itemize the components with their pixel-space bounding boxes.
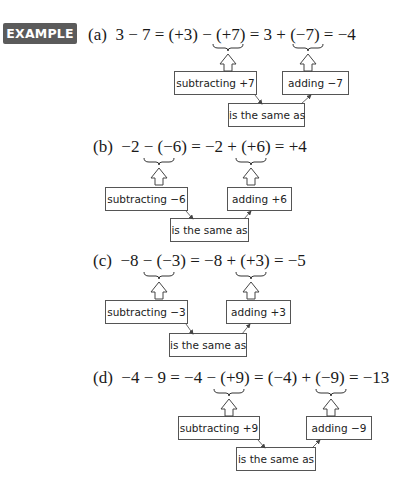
- callout-add-d: adding −9: [306, 416, 372, 440]
- brace-arrow-subtract-a: [213, 44, 243, 71]
- callout-subtract-d: subtracting +9: [178, 416, 260, 440]
- example-badge: EXAMPLE 1: [3, 23, 77, 44]
- callout-subtract-c: subtracting −3: [105, 300, 188, 324]
- equation-b: (b) −2 − (−6) = −2 + (+6) = +4: [93, 137, 307, 157]
- brace-arrow-add-c: [236, 272, 266, 299]
- equation-d-text: −4 − 9 = −4 − (+9) = (−4) + (−9) = −13: [121, 368, 389, 387]
- callout-add-b: adding +6: [227, 187, 292, 211]
- brace-arrow-add-d: [316, 389, 346, 416]
- equation-b-text: −2 − (−6) = −2 + (+6) = +4: [121, 137, 306, 156]
- callout-add-a: adding −7: [282, 71, 349, 95]
- brace-arrow-subtract-d: [214, 389, 244, 416]
- callout-same-b: is the same as: [170, 218, 249, 242]
- equation-a-text: 3 − 7 = (+3) − (+7) = 3 + (−7) = −4: [115, 25, 355, 44]
- brace-arrow-subtract-c: [144, 272, 174, 299]
- equation-d-label: (d): [93, 368, 113, 387]
- equation-b-label: (b): [93, 137, 113, 156]
- equation-a-label: (a): [88, 25, 107, 44]
- callout-same-c: is the same as: [169, 333, 247, 357]
- callout-subtract-b: subtracting −6: [105, 187, 188, 211]
- brace-arrow-add-b: [236, 158, 266, 185]
- equation-c: (c) −8 − (−3) = −8 + (+3) = −5: [93, 251, 306, 271]
- equation-a: (a) 3 − 7 = (+3) − (+7) = 3 + (−7) = −4: [88, 25, 356, 45]
- callout-add-c: adding +3: [226, 300, 291, 324]
- equation-d: (d) −4 − 9 = −4 − (+9) = (−4) + (−9) = −…: [93, 368, 389, 388]
- equation-c-label: (c): [93, 251, 112, 270]
- brace-arrow-add-a: [293, 44, 323, 71]
- equation-c-text: −8 − (−3) = −8 + (+3) = −5: [120, 251, 305, 270]
- callout-same-a: is the same as: [228, 103, 305, 127]
- brace-arrow-subtract-b: [144, 158, 174, 185]
- callout-same-d: is the same as: [236, 447, 316, 471]
- callout-subtract-a: subtracting +7: [174, 71, 257, 95]
